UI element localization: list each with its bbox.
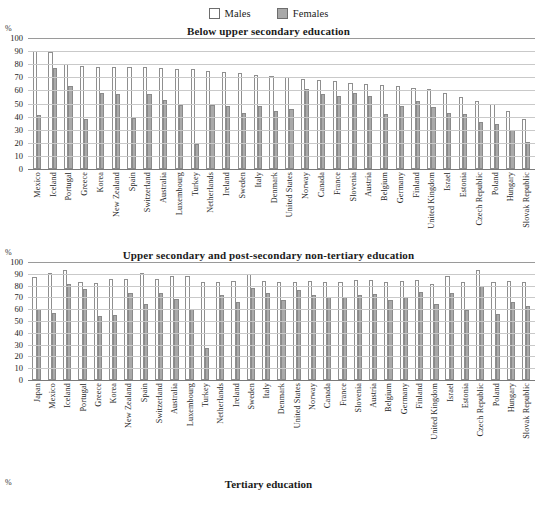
bar-females [496, 314, 500, 380]
y-axis-tick: 70 [15, 72, 24, 82]
bar-group [182, 276, 197, 380]
x-axis-label: Iceland [48, 172, 57, 197]
x-axis-label-cell: Slovak Republic [519, 381, 534, 466]
x-axis-label: Mexico [47, 383, 56, 409]
x-axis-label: Turkey [190, 172, 199, 196]
gridline [28, 286, 535, 287]
x-axis-label-cell: Greece [76, 170, 92, 242]
gridline [28, 297, 535, 298]
bar-females [210, 105, 214, 169]
x-axis-label-cell: United Kingdom [424, 170, 440, 242]
x-axis-label: Belgium [384, 383, 393, 412]
x-axis-label-cell: Belgium [381, 381, 396, 466]
chart-title-2: Upper secondary and post-secondary non-t… [0, 248, 537, 262]
y-axis-tick: 70 [15, 292, 24, 302]
bar-females [373, 294, 377, 380]
x-axis-label: Slovak Republic [522, 172, 531, 228]
x-axis-label: Turkey [200, 383, 209, 407]
x-axis-label-cell: United States [289, 381, 304, 466]
x-axis-label: Austria [369, 383, 378, 408]
x-axis-label: Sweden [246, 383, 255, 410]
x-axis-label-cell: Norway [297, 170, 313, 242]
gridline [28, 274, 535, 275]
bar-group [502, 111, 518, 169]
x-axis-label-cell: Ireland [218, 170, 234, 242]
bar-group [121, 279, 136, 380]
x-axis-label-cell: Australia [167, 381, 182, 466]
bar-group [108, 67, 124, 169]
x-axis-labels-1: MexicoIcelandPortugalGreeceKoreaNew Zeal… [28, 170, 535, 242]
bar-group [60, 270, 75, 380]
y-axis-tick: 10 [15, 151, 24, 161]
bar-group [228, 281, 243, 380]
legend-swatch-females-icon [277, 8, 288, 19]
x-axis-label: New Zealand [111, 172, 120, 217]
x-axis-label-cell: Germany [392, 170, 408, 242]
bar-group [171, 69, 187, 169]
y-axis-tick: 40 [15, 112, 24, 122]
x-axis-label: Estonia [460, 383, 469, 408]
bar-group [234, 73, 250, 169]
bar-group [473, 270, 488, 380]
x-axis-label: Italy [262, 383, 271, 399]
y-axis-tick: 100 [10, 257, 23, 267]
x-axis-label: Canada [316, 172, 325, 197]
x-axis-labels-2: JapanMexicoIcelandPortugalGreeceKoreaNew… [28, 381, 535, 466]
x-axis-label: Japan [32, 383, 41, 402]
bar-females [251, 288, 255, 380]
bar-group [487, 104, 503, 170]
bar-females [419, 292, 423, 381]
x-axis-label: Poland [491, 383, 500, 406]
y-axis-1: 1009080706050403020100 [0, 38, 26, 170]
bar-females [205, 348, 209, 380]
x-axis-label: Slovenia [353, 383, 362, 412]
x-axis-label-cell: Italy [258, 381, 273, 466]
y-axis-unit-label-2: % [5, 248, 12, 257]
x-axis-label: Greece [93, 383, 102, 407]
bar-females [384, 114, 388, 169]
x-axis-label-cell: Czech Republic [471, 170, 487, 242]
bar-females [226, 106, 230, 169]
y-axis-tick: 60 [15, 85, 24, 95]
y-axis-tick: 80 [15, 59, 24, 69]
x-axis-label-cell: Greece [90, 381, 105, 466]
x-axis-label: Portugal [78, 383, 87, 412]
x-axis-label: Israel [445, 383, 454, 402]
x-axis-label-cell: Turkey [187, 170, 203, 242]
bar-females [258, 106, 262, 169]
x-axis-label: Spain [127, 172, 136, 191]
x-axis-label-cell: Canada [313, 170, 329, 242]
x-axis-label-cell: Austria [360, 170, 376, 242]
bar-group [105, 279, 120, 380]
chart-title-3: Tertiary education [0, 478, 537, 490]
x-axis-label: Denmark [277, 383, 286, 414]
gridline [28, 309, 535, 310]
bar-group [139, 67, 155, 169]
bar-group [44, 273, 59, 380]
x-axis-label-cell: Poland [488, 381, 503, 466]
x-axis-label: Switzerland [155, 383, 164, 423]
x-axis-label: Portugal [64, 172, 73, 201]
x-axis-label-cell: France [335, 381, 350, 466]
gridline [28, 368, 535, 369]
x-axis-label: Norway [307, 383, 316, 410]
x-axis-label: Canada [323, 383, 332, 408]
x-axis-label: Slovak Republic [522, 383, 531, 439]
bar-females [116, 94, 120, 169]
legend-label-females: Females [293, 8, 329, 19]
x-axis-label: Iceland [63, 383, 72, 408]
x-axis-label: Switzerland [143, 172, 152, 212]
bar-females [416, 101, 420, 169]
x-axis-label-cell: Switzerland [151, 381, 166, 466]
bar-females [113, 315, 117, 380]
bar-group [124, 67, 140, 169]
x-axis-label-cell: Norway [304, 381, 319, 466]
bar-group [366, 280, 381, 380]
bar-females [242, 113, 246, 169]
x-axis-label-cell: New Zealand [108, 170, 124, 242]
bar-females [321, 94, 325, 169]
x-axis-label: Germany [395, 172, 404, 203]
bar-females [128, 293, 132, 380]
y-axis-tick: 80 [15, 281, 24, 291]
x-axis-label: Ireland [231, 383, 240, 407]
